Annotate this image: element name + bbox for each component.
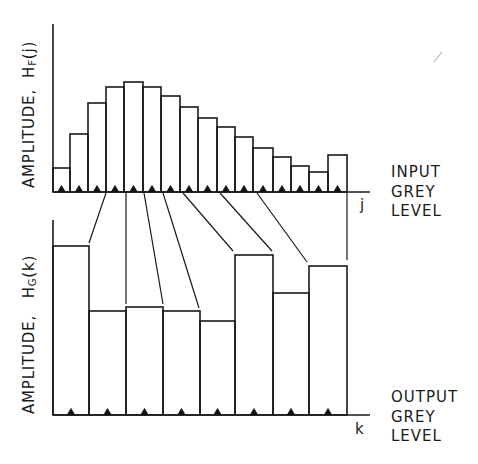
mapping-line — [89, 193, 106, 243]
top-bar — [143, 87, 161, 192]
stray-mark — [434, 52, 442, 62]
top-histogram-bars — [53, 82, 347, 192]
mapping-line — [183, 193, 233, 251]
output-label-line-2: GREY — [391, 408, 458, 428]
top-bin-marker-icon — [130, 186, 137, 192]
bottom-bar — [89, 311, 126, 415]
bottom-bin-marker-icon — [325, 409, 332, 415]
top-y-label-subscript: F — [27, 59, 38, 66]
output-label-line-1: OUTPUT — [391, 388, 458, 408]
top-bin-marker-icon — [223, 186, 230, 192]
top-bar — [235, 137, 253, 192]
bottom-bin-marker-icon — [214, 409, 221, 415]
mapping-line — [220, 193, 272, 251]
top-bin-marker-icon — [334, 186, 341, 192]
top-bar — [161, 96, 180, 192]
bottom-bar — [273, 293, 309, 415]
top-bin-marker-icon — [167, 186, 174, 192]
bottom-bar — [309, 266, 347, 415]
bottom-y-label-prefix: AMPLITUDE, — [20, 315, 38, 414]
bottom-bar — [235, 255, 273, 415]
bottom-bin-marker-icon — [141, 409, 148, 415]
top-bin-marker-icon — [241, 186, 248, 192]
input-label-line-3: LEVEL — [391, 202, 442, 222]
bottom-y-label-symbol: H — [20, 286, 38, 298]
histogram-equalization-figure: AMPLITUDE, HF(j) AMPLITUDE, HG(k) j k IN… — [0, 0, 478, 464]
top-bin-marker-icon — [76, 186, 83, 192]
bottom-y-label-subscript: G — [27, 278, 38, 287]
top-bar — [180, 107, 198, 192]
top-x-axis-variable: j — [360, 196, 364, 214]
top-bar — [106, 87, 124, 192]
top-bin-marker-icon — [186, 186, 193, 192]
top-bar — [124, 82, 143, 192]
bottom-x-axis-variable: k — [355, 420, 364, 438]
bottom-bin-marker-icon — [251, 409, 258, 415]
top-bin-marker-icon — [149, 186, 156, 192]
top-bar — [70, 134, 88, 192]
top-bin-marker-icon — [315, 186, 322, 192]
top-y-label-arg: (j) — [20, 41, 38, 59]
input-label-line-1: INPUT — [391, 163, 442, 183]
output-grey-level-label: OUTPUT GREY LEVEL — [391, 388, 458, 447]
top-bin-marker-icon — [204, 186, 211, 192]
top-bin-marker-icon — [279, 186, 286, 192]
top-bin-marker-icon — [94, 186, 101, 192]
input-label-line-2: GREY — [391, 183, 442, 203]
bottom-bin-marker-icon — [178, 409, 185, 415]
bottom-y-label-arg: (k) — [20, 255, 38, 278]
mapping-line — [257, 193, 307, 262]
output-label-line-3: LEVEL — [391, 427, 458, 447]
bottom-bar — [163, 311, 200, 415]
bottom-histogram-bars — [53, 246, 347, 415]
top-bin-markers — [58, 186, 341, 192]
bottom-bar — [53, 246, 89, 415]
bottom-bin-marker-icon — [104, 409, 111, 415]
input-grey-level-label: INPUT GREY LEVEL — [391, 163, 442, 222]
bottom-bin-marker-icon — [68, 409, 75, 415]
top-axes — [53, 24, 370, 192]
top-bar — [198, 118, 217, 192]
top-y-axis-label: AMPLITUDE, HF(j) — [20, 41, 38, 188]
bottom-bin-marker-icon — [288, 409, 295, 415]
bottom-axes — [53, 220, 370, 415]
top-y-label-symbol: H — [20, 66, 38, 78]
mapping-line — [163, 193, 199, 308]
top-bar — [217, 127, 235, 192]
mapping-line — [144, 193, 163, 304]
top-bar — [88, 103, 106, 192]
bottom-bar — [126, 307, 163, 415]
top-bin-marker-icon — [297, 186, 304, 192]
bottom-y-axis-label: AMPLITUDE, HG(k) — [20, 255, 38, 414]
top-bin-marker-icon — [260, 186, 267, 192]
top-bin-marker-icon — [58, 186, 65, 192]
top-bin-marker-icon — [112, 186, 119, 192]
bottom-bar — [200, 321, 235, 415]
top-y-label-prefix: AMPLITUDE, — [20, 89, 38, 188]
